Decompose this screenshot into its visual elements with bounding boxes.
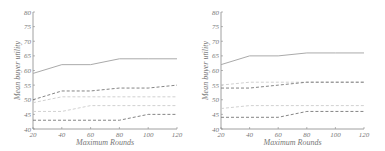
series-line-solid [221,53,364,65]
y-tick-label: 60 [24,67,32,75]
y-tick-label: 70 [212,38,220,46]
y-tick-label: 45 [212,111,220,119]
series-line-dashed-dark-lower [221,111,364,117]
x-axis-label: Maximum Rounds [75,138,134,147]
x-tick-label: 20 [30,131,38,139]
y-tick-label: 75 [24,23,32,31]
y-tick-label: 70 [24,38,32,46]
chart-left: 40455055606570758020406080100120Maximum … [13,9,183,148]
series-line-dashed-light-upper [33,97,177,103]
y-tick-label: 65 [212,52,220,60]
y-tick-label: 50 [212,96,220,104]
x-axis-label: Maximum Rounds [263,138,322,147]
series-line-dashed-dark-upper [33,85,177,100]
series-line-dashed-light-lower [221,106,364,109]
x-tick-label: 100 [143,131,154,139]
x-tick-label: 20 [218,131,226,139]
chart-right: 40455055606570758020406080100120Maximum … [201,9,370,148]
charts-container: 40455055606570758020406080100120Maximum … [0,0,385,151]
y-tick-label: 75 [212,23,220,31]
series-line-dashed-light-lower [33,106,177,112]
x-tick-label: 40 [246,131,254,139]
y-tick-label: 80 [212,9,220,17]
y-tick-label: 55 [212,82,220,90]
series-line-dashed-dark-lower [33,114,177,120]
x-tick-label: 120 [172,131,183,139]
y-tick-label: 55 [24,82,32,90]
y-axis-label: Mean buyer utility [201,41,210,102]
x-tick-label: 120 [359,131,370,139]
y-tick-label: 65 [24,52,32,60]
y-tick-label: 60 [212,67,220,75]
y-tick-label: 45 [24,111,32,119]
y-axis-label: Mean buyer utility [13,41,22,102]
y-tick-label: 50 [24,96,32,104]
y-tick-label: 80 [24,9,32,17]
x-tick-label: 100 [330,131,341,139]
series-line-solid [33,59,177,74]
x-tick-label: 40 [58,131,66,139]
